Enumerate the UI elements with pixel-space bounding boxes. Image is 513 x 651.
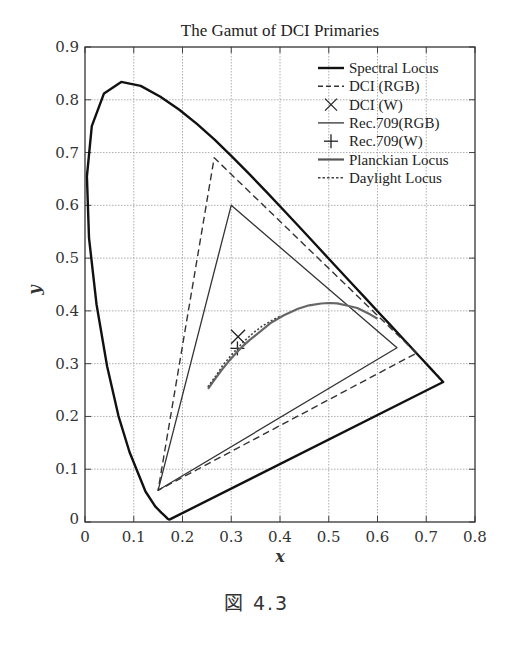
chart: The Gamut of DCI Primaries 00.10.20.30.4… bbox=[0, 0, 513, 651]
x-tick-label: 0.4 bbox=[268, 528, 292, 546]
x-tick-label: 0 bbox=[80, 528, 90, 546]
x-tick-label: 0.1 bbox=[122, 528, 146, 546]
legend-label: DCI (RGB) bbox=[349, 78, 419, 95]
y-tick-label: 0 bbox=[69, 510, 79, 528]
y-tick-label: 0.4 bbox=[55, 302, 79, 320]
y-tick-label: 0.5 bbox=[55, 249, 79, 267]
y-axis-label: y bbox=[25, 284, 44, 296]
legend-label: Rec.709(W) bbox=[349, 133, 423, 150]
y-tick-label: 0.3 bbox=[55, 355, 79, 373]
x-tick-label: 0.2 bbox=[171, 528, 195, 546]
x-tick-label: 0.5 bbox=[317, 528, 341, 546]
legend-label: Spectral Locus bbox=[349, 60, 439, 76]
x-tick-label: 0.6 bbox=[366, 528, 390, 546]
rec-709-rgb-line bbox=[158, 205, 397, 490]
y-tick-label: 0.1 bbox=[55, 460, 79, 478]
y-tick-label: 0.8 bbox=[55, 91, 79, 109]
y-tick-label: 0.9 bbox=[55, 38, 79, 56]
x-axis-label: x bbox=[274, 547, 285, 566]
legend-item-spectral-locus: Spectral Locus bbox=[318, 60, 439, 76]
chart-title: The Gamut of DCI Primaries bbox=[181, 21, 379, 40]
figure-caption: 図 4.3 bbox=[0, 588, 513, 615]
x-tick-label: 0.8 bbox=[463, 528, 487, 546]
legend-item-rec-709-rgb: Rec.709(RGB) bbox=[318, 115, 439, 132]
y-tick-label: 0.2 bbox=[55, 407, 79, 425]
x-tick-label: 0.7 bbox=[414, 528, 438, 546]
legend-label: Daylight Locus bbox=[349, 170, 442, 186]
legend-item-dci-rgb: DCI (RGB) bbox=[318, 78, 419, 95]
daylight-locus-line bbox=[208, 316, 280, 387]
legend-label: Planckian Locus bbox=[349, 152, 449, 168]
y-tick-label: 0.7 bbox=[55, 144, 79, 162]
legend-item-planckian-locus: Planckian Locus bbox=[318, 152, 449, 168]
legend-item-daylight-locus: Daylight Locus bbox=[318, 170, 442, 186]
legend-item-rec-709-w: Rec.709(W) bbox=[324, 133, 423, 150]
planckian-locus-line bbox=[208, 303, 377, 389]
legend-label: Rec.709(RGB) bbox=[349, 115, 439, 132]
x-tick-label: 0.3 bbox=[219, 528, 243, 546]
legend-label: DCI (W) bbox=[349, 97, 403, 114]
legend-item-dci-w: DCI (W) bbox=[325, 97, 403, 114]
y-tick-label: 0.6 bbox=[55, 196, 79, 214]
legend: Spectral LocusDCI (RGB)DCI (W)Rec.709(RG… bbox=[318, 60, 449, 186]
